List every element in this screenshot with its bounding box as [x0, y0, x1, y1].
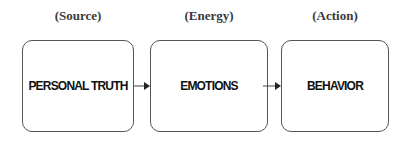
connector-arrows: [0, 0, 410, 145]
arrow-icon: [263, 82, 281, 90]
arrow-icon: [134, 82, 150, 90]
